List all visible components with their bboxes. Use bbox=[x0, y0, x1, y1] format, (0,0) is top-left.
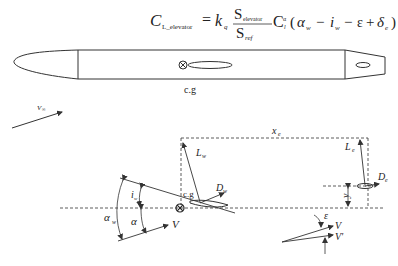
formula-i: i bbox=[330, 14, 334, 30]
formula-minus2: − bbox=[344, 14, 352, 30]
freestream-velocity-arrow bbox=[12, 112, 62, 128]
v-label: V bbox=[172, 218, 180, 230]
fuselage bbox=[14, 50, 385, 79]
epsilon-top-arrow bbox=[314, 215, 321, 227]
tail-section bbox=[345, 50, 385, 79]
xe-sub: e bbox=[278, 131, 281, 137]
formula-i-sub: w bbox=[335, 24, 340, 32]
iw-sub: w bbox=[134, 196, 138, 201]
formula-eps: ε bbox=[357, 15, 363, 30]
xe-label: x bbox=[271, 125, 277, 136]
lift-formula: C L_elevator = k q S elevator S ref C α … bbox=[150, 6, 396, 42]
dw-sub: w bbox=[223, 188, 227, 194]
epsilon-label: ε bbox=[324, 210, 328, 221]
formula-alpha: α bbox=[297, 14, 306, 30]
elevator-lift-arrow bbox=[360, 140, 365, 185]
formula-k-sub: q bbox=[224, 23, 228, 31]
reference-lines bbox=[60, 138, 385, 208]
formula-plus: + bbox=[366, 14, 374, 30]
v-inf-sub: ∞ bbox=[42, 107, 46, 112]
formula-delta-sub: e bbox=[385, 24, 388, 32]
v-prime-label: V' bbox=[335, 231, 344, 242]
elevator-ellipse bbox=[356, 63, 370, 68]
alpha-w-arc bbox=[117, 180, 123, 239]
cg-label: c.g bbox=[183, 189, 194, 199]
formula-equals: = bbox=[202, 11, 211, 28]
alpha-w-label: α bbox=[104, 211, 110, 223]
formula-minus1: − bbox=[316, 14, 324, 30]
formula-lhs: C bbox=[150, 11, 162, 30]
formula-frac-num: S bbox=[234, 6, 242, 22]
formula-paren-close: ) bbox=[391, 14, 396, 31]
formula-frac-den-sub: ref bbox=[245, 34, 254, 42]
velocity-arrow bbox=[118, 225, 168, 241]
de-sub: e bbox=[385, 177, 388, 183]
formula-frac-num-sub: elevator bbox=[243, 16, 262, 22]
formula-paren-open: ( bbox=[290, 14, 295, 31]
fuselage-cg-label: c.g bbox=[184, 84, 196, 95]
ye-label: y bbox=[340, 193, 351, 199]
formula-alpha-sub: w bbox=[306, 24, 311, 32]
downwash-v-label: V bbox=[335, 220, 343, 231]
wing-ellipse bbox=[188, 62, 232, 69]
lw-label: L bbox=[195, 147, 202, 158]
alpha-arc bbox=[141, 209, 146, 233]
formula-cl-sub: l bbox=[284, 24, 286, 30]
aircraft-force-diagram: C L_elevator = k q S elevator S ref C α … bbox=[0, 0, 398, 266]
iw-arc bbox=[139, 188, 141, 206]
formula-delta: δ bbox=[377, 14, 385, 30]
le-sub: e bbox=[352, 147, 355, 153]
lw-sub: w bbox=[202, 153, 206, 159]
alpha-w-sub: w bbox=[112, 219, 116, 225]
formula-k: k bbox=[215, 12, 223, 29]
formula-frac-den: S bbox=[236, 25, 244, 41]
formula-cl-sup: α bbox=[283, 16, 287, 22]
alpha-label: α bbox=[131, 215, 137, 227]
fuselage-nose bbox=[14, 50, 78, 79]
formula-lhs-sub: L_elevator bbox=[162, 23, 193, 31]
le-label: L bbox=[344, 141, 351, 152]
